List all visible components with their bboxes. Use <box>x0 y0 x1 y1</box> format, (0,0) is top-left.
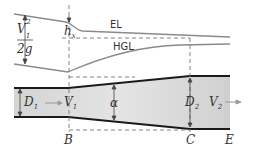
section-b-label: B <box>64 134 73 146</box>
d2-label: D2 <box>185 96 199 111</box>
hgl-label: HGL <box>113 42 134 52</box>
head-loss-label: hx <box>64 25 76 40</box>
v1-label: V1 <box>64 96 77 111</box>
energy-line <box>14 14 230 37</box>
alpha-label: α <box>110 97 118 109</box>
el-label: EL <box>110 20 122 30</box>
section-c-label: C <box>186 134 195 146</box>
diffuser-diagram: V12 2g hx EL HGL D1 V1 α D2 V2 B C E <box>0 0 253 152</box>
velocity-head-numerator: V12 <box>17 23 35 38</box>
velocity-head-denominator: 2g <box>17 43 32 55</box>
section-e-label: E <box>225 134 234 146</box>
diagram-canvas <box>0 0 253 152</box>
d1-label: D1 <box>24 96 38 111</box>
v2-label: V2 <box>209 96 222 111</box>
